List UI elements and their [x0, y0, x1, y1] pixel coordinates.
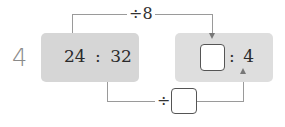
right-ratio-separator: :	[229, 46, 235, 66]
left-ratio-separator: :	[95, 46, 101, 66]
top-connector-right-vertical	[212, 14, 213, 34]
arrow-down-icon	[209, 33, 215, 39]
arrow-up-icon	[240, 68, 246, 74]
left-ratio-second: 32	[110, 46, 132, 66]
left-ratio: 24 : 32	[64, 46, 132, 66]
question-number: 4	[12, 44, 27, 72]
bottom-operation-symbol: ÷	[155, 91, 172, 110]
bottom-operation-blank[interactable]	[171, 88, 197, 114]
top-operation: ÷8	[127, 4, 155, 23]
right-ratio-second: 4	[243, 46, 254, 66]
top-operation-value: 8	[142, 4, 152, 23]
right-ratio-rest: : 4	[229, 46, 254, 66]
right-ratio-first-blank[interactable]	[200, 44, 225, 71]
left-ratio-first: 24	[64, 46, 86, 66]
divide-symbol: ÷	[129, 4, 142, 23]
